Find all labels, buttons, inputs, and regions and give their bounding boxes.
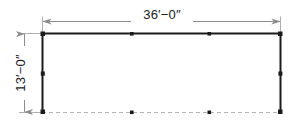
node-marker-right-mid [278, 72, 282, 76]
node-marker-top-third-1 [130, 32, 134, 36]
node-marker-top-left [41, 32, 46, 37]
width-dimension-label: 36′−0″ [143, 7, 181, 22]
height-dimension-group: 13′−0″ [13, 34, 32, 112]
node-marker-top-third-2 [208, 32, 212, 36]
width-dimension-group: 36′−0″ [43, 7, 280, 25]
height-dimension-label: 13′−0″ [13, 54, 28, 92]
node-marker-top-right [278, 32, 283, 37]
node-marker-left-mid [41, 72, 45, 76]
node-marker-bottom-right [278, 110, 283, 115]
node-marker-bottom-left [41, 110, 46, 115]
node-marker-bottom-third-2 [208, 111, 212, 115]
node-marker-bottom-third-1 [130, 111, 134, 115]
extension-lines [19, 17, 281, 113]
cad-drawing-canvas: 36′−0″ 13′−0″ [0, 0, 304, 127]
node-markers [41, 32, 283, 115]
dimensioned-plan-drawing: 36′−0″ 13′−0″ [0, 0, 304, 127]
plan-outline [42, 33, 281, 113]
